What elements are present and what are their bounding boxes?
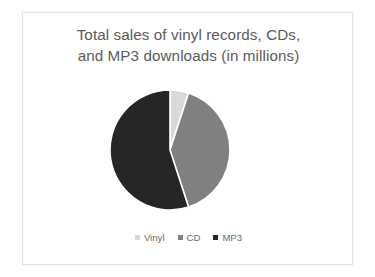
legend-swatch-vinyl-icon — [135, 235, 140, 240]
legend-swatch-mp3-icon — [213, 235, 218, 240]
chart-title: Total sales of vinyl records, CDs, and M… — [23, 24, 354, 66]
pie-svg — [109, 89, 231, 211]
legend-label-cd: CD — [187, 232, 201, 243]
chart-title-line-2: and MP3 downloads (in millions) — [23, 45, 354, 66]
legend-label-vinyl: Vinyl — [144, 232, 165, 243]
chart-legend: VinylCDMP3 — [23, 232, 354, 243]
legend-label-mp3: MP3 — [222, 232, 242, 243]
chart-title-line-1: Total sales of vinyl records, CDs, — [23, 24, 354, 45]
legend-item-mp3[interactable]: MP3 — [213, 232, 242, 243]
pie-plot-area — [109, 89, 231, 211]
slide-frame: Total sales of vinyl records, CDs, and M… — [22, 12, 353, 265]
pie-chart[interactable]: Total sales of vinyl records, CDs, and M… — [23, 13, 352, 264]
legend-swatch-cd-icon — [178, 235, 183, 240]
pie-slices — [110, 90, 230, 210]
legend-item-cd[interactable]: CD — [178, 232, 201, 243]
legend-item-vinyl[interactable]: Vinyl — [135, 232, 165, 243]
